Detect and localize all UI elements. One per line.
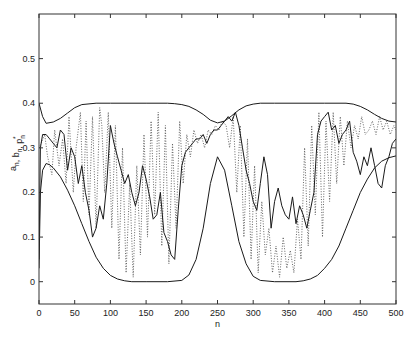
y-tick-label: 0.3	[22, 143, 35, 153]
x-tick-label: 500	[388, 308, 403, 318]
x-tick-label: 300	[246, 308, 261, 318]
y-tick-label: 0.5	[22, 54, 35, 64]
y-tick-label: 0.1	[22, 232, 35, 242]
y-tick-label: 0	[30, 277, 35, 287]
x-tick-label: 150	[139, 308, 154, 318]
line-chart: 050100150200250300350400450500 00.10.20.…	[0, 0, 412, 337]
x-tick-label: 0	[36, 308, 41, 318]
x-tick-label: 50	[70, 308, 80, 318]
x-tick-label: 250	[210, 308, 225, 318]
x-tick-label: 450	[353, 308, 368, 318]
y-tick-label: 0.4	[22, 98, 35, 108]
x-tick-label: 400	[317, 308, 332, 318]
x-tick-label: 200	[174, 308, 189, 318]
y-tick-label: 0.2	[22, 187, 35, 197]
x-axis-label: n	[215, 319, 220, 329]
x-tick-label: 350	[281, 308, 296, 318]
chart-background	[0, 0, 412, 337]
x-tick-label: 100	[103, 308, 118, 318]
